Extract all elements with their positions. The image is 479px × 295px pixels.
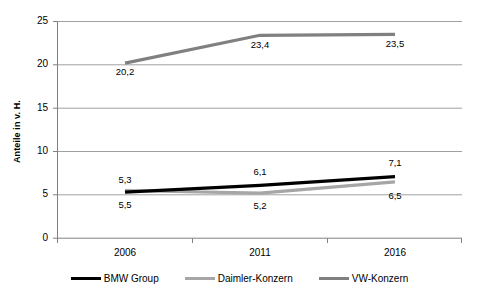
- legend-label-vw-konzern: VW-Konzern: [352, 273, 409, 284]
- data-label-bmw-2011: 6,1: [240, 166, 280, 177]
- legend-swatch-vw-konzern: [319, 277, 349, 280]
- data-label-vw-2006: 20,2: [105, 66, 145, 77]
- legend-label-bmw-group: BMW Group: [104, 273, 159, 284]
- data-label-vw-2011: 23,4: [240, 39, 280, 50]
- y-tick-label-25: 25: [26, 15, 48, 26]
- data-label-bmw-2016: 7,1: [375, 157, 415, 168]
- data-label-daimler-2011: 5,2: [240, 200, 280, 211]
- y-axis-title: Anteile in v. H.: [12, 100, 22, 163]
- y-tick-label-0: 0: [26, 232, 48, 243]
- y-axis-ticks: [53, 22, 57, 239]
- legend-swatch-daimler-konzern: [185, 277, 215, 280]
- y-tick-label-20: 20: [26, 58, 48, 69]
- legend-item-daimler-konzern[interactable]: Daimler-Konzern: [185, 273, 293, 284]
- x-axis-ticks: [58, 238, 462, 243]
- y-tick-label-15: 15: [26, 102, 48, 113]
- legend-swatch-bmw-group: [71, 277, 101, 280]
- legend-item-bmw-group[interactable]: BMW Group: [71, 273, 159, 284]
- line-chart: Anteile in v. H. 25 20 15 10 5 0 2006 20…: [0, 0, 479, 295]
- x-tick-label-2006: 2006: [95, 247, 155, 258]
- y-tick-label-10: 10: [26, 145, 48, 156]
- y-tick-label-5: 5: [26, 188, 48, 199]
- x-tick-label-2011: 2011: [230, 247, 290, 258]
- chart-legend: BMW Group Daimler-Konzern VW-Konzern: [0, 268, 479, 288]
- data-label-vw-2016: 23,5: [375, 38, 415, 49]
- data-label-daimler-2016: 6,5: [375, 190, 415, 201]
- x-tick-label-2016: 2016: [365, 247, 425, 258]
- legend-item-vw-konzern[interactable]: VW-Konzern: [319, 273, 409, 284]
- data-label-bmw-2006: 5,3: [105, 174, 145, 185]
- data-label-daimler-2006: 5,5: [105, 199, 145, 210]
- legend-label-daimler-konzern: Daimler-Konzern: [218, 273, 293, 284]
